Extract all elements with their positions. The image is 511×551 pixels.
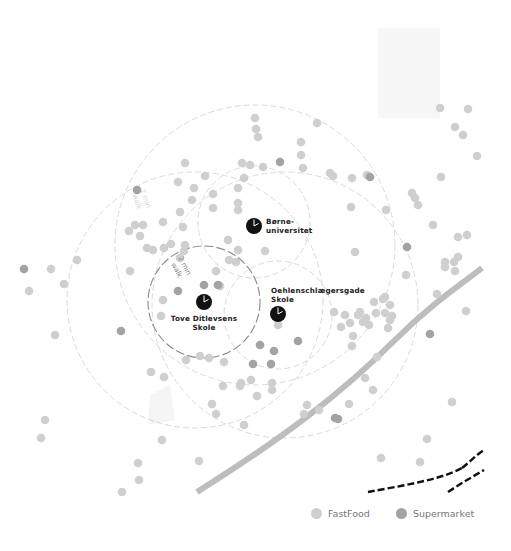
fastfood-point: [297, 138, 306, 147]
fastfood-point: [196, 352, 205, 361]
fastfood-point: [157, 312, 166, 321]
fastfood-point: [436, 104, 445, 113]
supermarket-point: [366, 173, 375, 182]
supermarket-point: [256, 341, 265, 350]
fastfood-point: [402, 271, 411, 280]
fastfood-point: [381, 309, 390, 318]
fastfood-point: [51, 331, 60, 340]
legend-label-fastfood: FastFood: [328, 508, 370, 519]
supermarket-point: [426, 330, 435, 339]
fastfood-point: [414, 201, 423, 210]
fastfood-point: [181, 159, 190, 168]
fastfood-point: [347, 203, 356, 212]
fastfood-point: [179, 223, 188, 232]
fastfood-point: [462, 307, 471, 316]
supermarket-point: [117, 327, 126, 336]
supermarket-point: [270, 347, 279, 356]
supermarket-point: [200, 281, 209, 290]
walking-radius-map: 2 min walk 2 min walk Børne- universitet…: [0, 0, 511, 551]
fastfood-point: [416, 458, 425, 467]
supermarket-point: [334, 415, 343, 424]
school-label-line-2: universitet: [266, 226, 313, 235]
fastfood-point: [473, 152, 482, 161]
fastfood-point: [219, 382, 228, 391]
supermarket-point: [276, 158, 285, 167]
fastfood-point: [346, 319, 355, 328]
fastfood-point: [195, 457, 204, 466]
school-marker-borneuniversitet[interactable]: Børne- universitet: [246, 217, 313, 235]
fastfood-point: [160, 373, 169, 382]
fastfood-point: [372, 309, 381, 318]
fastfood-point: [423, 435, 432, 444]
fastfood-point: [450, 258, 459, 267]
fastfood-point: [251, 114, 260, 123]
fastfood-point: [386, 301, 395, 310]
fastfood-point: [361, 374, 370, 383]
fastfood-point: [234, 206, 243, 215]
fastfood-point: [349, 332, 358, 341]
supermarket-point: [20, 265, 29, 274]
fastfood-point: [348, 174, 357, 183]
supermarket-point: [267, 360, 276, 369]
fastfood-point: [429, 221, 438, 230]
fastfood-point: [382, 206, 391, 215]
fastfood-point: [188, 196, 197, 205]
fastfood-point: [433, 290, 442, 299]
fastfood-point: [247, 376, 256, 385]
fastfood-point: [41, 416, 50, 425]
fastfood-point: [373, 353, 382, 362]
fastfood-point: [268, 386, 277, 395]
fastfood-point: [147, 368, 156, 377]
fastfood-point: [384, 324, 393, 333]
fastfood-point: [139, 221, 148, 230]
fastfood-point: [300, 410, 309, 419]
fastfood-point: [303, 401, 312, 410]
walk-radius-circle: [152, 172, 418, 438]
fastfood-point: [454, 233, 463, 242]
fastfood-point: [126, 267, 135, 276]
fastfood-point: [225, 256, 234, 265]
fastfood-point: [205, 354, 214, 363]
fastfood-point: [125, 227, 134, 236]
fastfood-point: [261, 247, 270, 256]
supermarket-point: [294, 337, 303, 346]
fastfood-point: [351, 248, 360, 257]
fastfood-point: [135, 476, 144, 485]
school-marker-tove-ditlevsens-skole[interactable]: Tove Ditlevsens Skole: [171, 294, 237, 332]
supermarket-point: [174, 287, 183, 296]
fastfood-point: [341, 311, 350, 320]
fastfood-point: [209, 190, 218, 199]
fastfood-point: [136, 232, 145, 241]
fastfood-point: [212, 267, 221, 276]
fastfood-point: [180, 247, 189, 256]
fastfood-point: [369, 386, 378, 395]
fastfood-point: [441, 263, 450, 272]
fastfood-point: [448, 398, 457, 407]
fastfood-point: [330, 308, 339, 317]
fastfood-point: [451, 267, 460, 276]
fastfood-point: [234, 184, 243, 193]
fastfood-point: [297, 151, 306, 160]
fastfood-point: [159, 296, 168, 305]
fastfood-point: [174, 178, 183, 187]
poi-points: [20, 104, 482, 497]
fastfood-point: [134, 459, 143, 468]
fastfood-point: [190, 184, 199, 193]
walk-label-2min: 2 min walk: [168, 255, 192, 281]
school-marker-oehlenschlaegersgade-skole[interactable]: Oehlenschlægersgade Skole: [270, 286, 365, 322]
railway: [368, 450, 484, 492]
supermarket-point: [214, 281, 223, 290]
school-label-line-1: Oehlenschlægersgade: [271, 286, 365, 295]
fastfood-point: [220, 358, 229, 367]
fastfood-point: [354, 311, 363, 320]
legend-label-supermarket: Supermarket: [413, 508, 474, 519]
fastfood-point: [37, 434, 46, 443]
fastfood-point: [370, 298, 379, 307]
fastfood-point: [25, 287, 34, 296]
fastfood-point: [365, 321, 374, 330]
fastfood-point: [159, 218, 168, 227]
fastfood-point: [253, 392, 262, 401]
fastfood-point: [237, 379, 246, 388]
fastfood-point: [240, 421, 249, 430]
fastfood-point: [348, 342, 357, 351]
